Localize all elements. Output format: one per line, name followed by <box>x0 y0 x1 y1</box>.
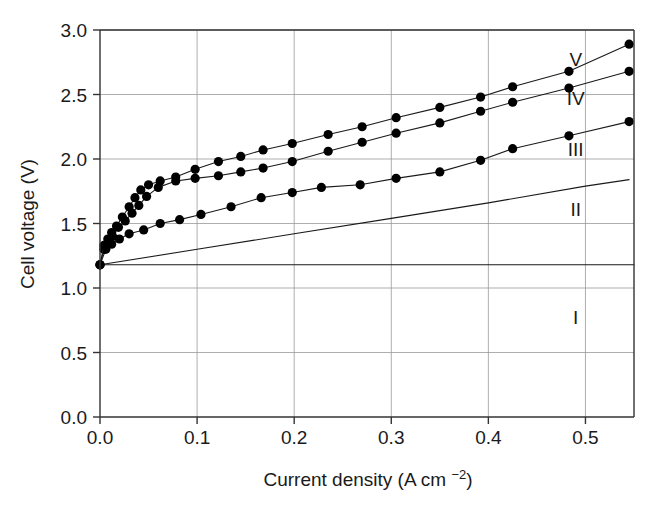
x-tick-label: 0.1 <box>184 427 210 448</box>
data-point <box>118 212 127 221</box>
data-point <box>317 183 326 192</box>
cell-voltage-vs-current-density-chart: 0.00.51.01.52.02.53.00.00.10.20.30.40.5 … <box>0 0 663 508</box>
x-axis-title-exponent: −2 <box>451 467 466 482</box>
data-point <box>324 147 333 156</box>
data-point <box>175 215 184 224</box>
data-point <box>171 172 180 181</box>
data-point <box>508 98 517 107</box>
data-point <box>191 165 200 174</box>
data-point <box>125 202 134 211</box>
x-tick-label: 0.3 <box>378 427 404 448</box>
y-tick-label: 1.5 <box>61 214 87 235</box>
data-point <box>191 174 200 183</box>
data-point <box>476 107 485 116</box>
data-point <box>259 163 268 172</box>
y-tick-label: 0.5 <box>61 343 87 364</box>
x-tick-label: 0.4 <box>475 427 502 448</box>
data-point <box>508 82 517 91</box>
curve-label-V: V <box>569 49 582 70</box>
data-point <box>435 118 444 127</box>
data-point <box>288 139 297 148</box>
data-point <box>625 67 634 76</box>
data-point <box>214 157 223 166</box>
data-point <box>226 202 235 211</box>
data-point <box>435 103 444 112</box>
x-axis-title-close: ) <box>466 469 472 490</box>
data-point <box>358 122 367 131</box>
y-tick-label: 1.0 <box>61 278 87 299</box>
data-point <box>435 167 444 176</box>
data-point <box>358 138 367 147</box>
data-point <box>196 210 205 219</box>
data-point <box>259 145 268 154</box>
data-point <box>236 167 245 176</box>
data-point <box>508 144 517 153</box>
data-point <box>112 221 121 230</box>
data-point <box>392 174 401 183</box>
y-tick-label: 3.0 <box>61 20 87 41</box>
data-point <box>288 188 297 197</box>
data-point <box>156 219 165 228</box>
x-tick-label: 0.5 <box>572 427 598 448</box>
data-point <box>356 180 365 189</box>
y-tick-label: 0.0 <box>61 407 87 428</box>
x-axis-title: Current density (A cm −2) <box>263 467 472 490</box>
curve-label-I: I <box>573 307 578 328</box>
curve-label-IV: IV <box>567 88 585 109</box>
data-point <box>236 152 245 161</box>
x-tick-label: 0.0 <box>87 427 113 448</box>
curve-label-II: II <box>570 199 581 220</box>
data-point <box>324 130 333 139</box>
y-tick-label: 2.5 <box>61 85 87 106</box>
y-tick-label: 2.0 <box>61 149 87 170</box>
data-point <box>136 185 145 194</box>
data-point <box>476 92 485 101</box>
data-point <box>144 180 153 189</box>
data-point <box>257 193 266 202</box>
data-point <box>392 113 401 122</box>
y-axis-title: Cell voltage (V) <box>17 159 38 289</box>
data-point <box>125 229 134 238</box>
chart-figure: 0.00.51.01.52.02.53.00.00.10.20.30.40.5 … <box>0 0 663 508</box>
x-axis-title-base: Current density (A cm <box>263 469 451 490</box>
data-point <box>139 225 148 234</box>
data-point <box>288 157 297 166</box>
data-point <box>625 40 634 49</box>
data-point <box>214 171 223 180</box>
data-point <box>476 156 485 165</box>
data-point <box>392 129 401 138</box>
x-tick-label: 0.2 <box>281 427 307 448</box>
data-point <box>156 176 165 185</box>
data-point <box>130 193 139 202</box>
data-point <box>625 117 634 126</box>
curve-label-III: III <box>568 139 584 160</box>
